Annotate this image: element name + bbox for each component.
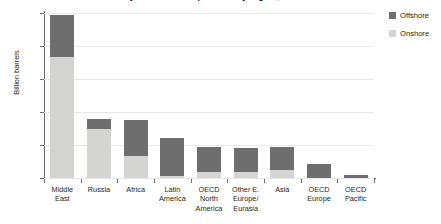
bar-group[interactable]	[50, 13, 74, 178]
bar-segment-offshore[interactable]	[50, 15, 74, 57]
bar-group[interactable]	[270, 13, 294, 178]
x-axis-category-label-line: OECD	[333, 185, 379, 194]
bar-segment-offshore[interactable]	[270, 147, 294, 170]
x-tick-mark	[264, 179, 265, 183]
stacked-bar[interactable]	[344, 175, 368, 178]
chart-container: ...yet to be developed field by region, …	[0, 0, 441, 224]
bar-segment-onshore[interactable]	[124, 156, 148, 178]
bar-group[interactable]	[197, 13, 221, 178]
bar-segment-offshore[interactable]	[307, 164, 331, 178]
x-tick-mark	[44, 179, 45, 183]
x-axis-category-label-line: Eurasia	[223, 204, 269, 213]
bar-segment-offshore[interactable]	[87, 119, 111, 128]
stacked-bar[interactable]	[124, 120, 148, 178]
x-axis-category-label-line: East	[39, 194, 85, 203]
bar-segment-offshore[interactable]	[197, 147, 221, 173]
plot-area	[44, 13, 374, 178]
x-tick-mark	[154, 179, 155, 183]
bar-segment-offshore[interactable]	[344, 175, 368, 178]
stacked-bar[interactable]	[50, 15, 74, 178]
stacked-bar[interactable]	[270, 147, 294, 178]
x-axis-category-label: OECDPacific	[333, 185, 379, 204]
bar-group[interactable]	[234, 13, 258, 178]
x-tick-mark	[301, 179, 302, 183]
stacked-bar[interactable]	[87, 119, 111, 178]
stacked-bar[interactable]	[160, 138, 184, 178]
gridline	[44, 178, 374, 179]
bar-segment-offshore[interactable]	[160, 138, 184, 175]
chart-title: ...yet to be developed field by region, …	[62, 0, 362, 1]
bar-group[interactable]	[87, 13, 111, 178]
x-tick-mark	[81, 179, 82, 183]
bar-segment-onshore[interactable]	[270, 170, 294, 178]
legend-label: Offshore	[400, 11, 429, 20]
stacked-bar[interactable]	[234, 148, 258, 178]
bar-segment-onshore[interactable]	[234, 172, 258, 178]
bar-group[interactable]	[344, 13, 368, 178]
bar-group[interactable]	[160, 13, 184, 178]
bar-group[interactable]	[307, 13, 331, 178]
chart-legend: OffshoreOnshore	[389, 11, 429, 47]
stacked-bar[interactable]	[197, 147, 221, 178]
bar-group[interactable]	[124, 13, 148, 178]
bar-segment-onshore[interactable]	[87, 129, 111, 179]
x-axis-category-label-line: Europe/	[223, 194, 269, 203]
legend-swatch	[389, 30, 396, 37]
x-tick-mark	[227, 179, 228, 183]
x-tick-mark	[337, 179, 338, 183]
x-axis-category-label-line: Pacific	[333, 194, 379, 203]
x-tick-mark	[117, 179, 118, 183]
bar-segment-onshore[interactable]	[50, 57, 74, 178]
stacked-bar[interactable]	[307, 164, 331, 178]
legend-item[interactable]: Onshore	[389, 29, 429, 38]
legend-label: Onshore	[400, 29, 429, 38]
legend-swatch	[389, 12, 396, 19]
bar-segment-offshore[interactable]	[234, 148, 258, 172]
bar-segment-offshore[interactable]	[124, 120, 148, 155]
legend-item[interactable]: Offshore	[389, 11, 429, 20]
x-tick-mark	[191, 179, 192, 183]
x-tick-mark	[374, 179, 375, 183]
bar-segment-onshore[interactable]	[160, 176, 184, 178]
bar-segment-onshore[interactable]	[197, 172, 221, 178]
y-axis-title: Billion barrels	[12, 33, 21, 113]
